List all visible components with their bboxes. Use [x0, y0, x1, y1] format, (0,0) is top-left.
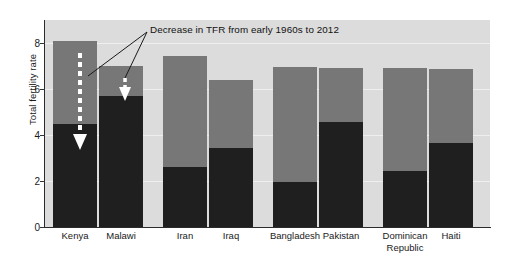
x-tick-label: Iraq [195, 230, 267, 242]
y-tick-mark [40, 227, 45, 228]
x-tick-label: Pakistan [305, 230, 377, 242]
y-tick-mark [40, 135, 45, 136]
y-tick-label: 6 [18, 84, 40, 95]
bar-2012 [383, 171, 427, 227]
bar-2012 [319, 122, 363, 227]
x-axis-tick-labels: KenyaMalawiIranIraqBangladeshPakistanDom… [0, 230, 515, 264]
y-tick-label: 8 [18, 38, 40, 49]
y-axis-tick-labels: 02468 [16, 0, 40, 264]
plot-area [45, 20, 490, 227]
y-tick-mark [40, 43, 45, 44]
gridline [45, 43, 490, 44]
x-tick-label: Malawi [85, 230, 157, 242]
x-axis-line [44, 227, 491, 228]
annotation-label: Decrease in TFR from early 1960s to 2012 [150, 24, 339, 35]
y-tick-label: 4 [18, 130, 40, 141]
bar-2012 [273, 182, 317, 227]
y-tick-label: 2 [18, 176, 40, 187]
bar-2012 [53, 124, 97, 228]
fertility-rate-bar-chart: Total fertility rate 02468 KenyaMalawiIr… [0, 0, 515, 264]
bar-2012 [99, 96, 143, 227]
bar-2012 [209, 148, 253, 227]
x-tick-label: Haiti [415, 230, 487, 242]
y-tick-mark [40, 181, 45, 182]
bar-2012 [429, 143, 473, 227]
y-tick-mark [40, 89, 45, 90]
bar-2012 [163, 167, 207, 227]
